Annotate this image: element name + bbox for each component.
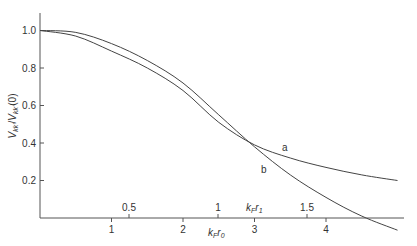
x2-tick-label: 0.5 bbox=[122, 202, 136, 213]
x-tick-label: 4 bbox=[323, 224, 329, 235]
y-tick-label: 0.8 bbox=[22, 63, 36, 74]
curve-b bbox=[40, 31, 398, 231]
y-tick-label: 0.2 bbox=[22, 175, 36, 186]
y-ticks: 0.20.40.60.81.0 bbox=[22, 25, 44, 186]
y-tick-label: 0.6 bbox=[22, 100, 36, 111]
x2-tick-label: 1.5 bbox=[300, 202, 314, 213]
x-axis-secondary-label: kFr1 bbox=[246, 202, 263, 214]
x-tick-label: 2 bbox=[180, 224, 186, 235]
y-axis-label: Vkk'/Vkk'(0) bbox=[7, 93, 19, 138]
curve-a-label: a bbox=[282, 142, 288, 153]
x-ticks-secondary: 0.511.5 bbox=[122, 202, 314, 218]
svg-text:kFr0: kFr0 bbox=[208, 227, 225, 239]
x-axis-primary-label: kFr0 bbox=[208, 227, 225, 239]
curves bbox=[40, 31, 398, 231]
line-chart: 0.20.40.60.81.0 1234 0.511.5 a b kFr0 kF… bbox=[0, 0, 417, 246]
curve-b-label: b bbox=[261, 164, 267, 175]
y-tick-label: 0.4 bbox=[22, 138, 36, 149]
y-tick-label: 1.0 bbox=[22, 25, 36, 36]
x-tick-label: 3 bbox=[252, 224, 258, 235]
svg-text:Vkk'/Vkk'(0): Vkk'/Vkk'(0) bbox=[7, 93, 19, 138]
x2-tick-label: 1 bbox=[215, 202, 221, 213]
x-tick-label: 1 bbox=[109, 224, 115, 235]
curve-a bbox=[40, 31, 398, 181]
svg-text:kFr1: kFr1 bbox=[246, 202, 263, 214]
